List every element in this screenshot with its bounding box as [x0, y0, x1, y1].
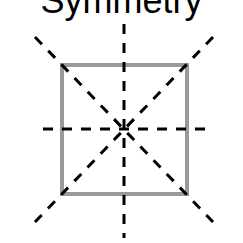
symmetry-diagram	[0, 0, 243, 243]
